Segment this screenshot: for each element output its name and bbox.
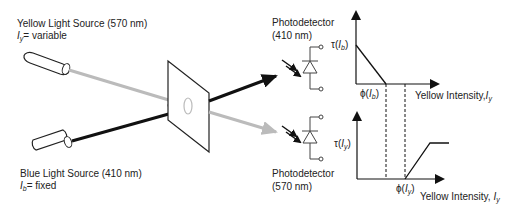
- chart-top-xlabel: Yellow Intensity,Iy: [415, 90, 492, 104]
- photodetector-410nm: [282, 45, 323, 91]
- yellow-light-source: [24, 52, 71, 75]
- detector-top-wavelength: (410 nm): [272, 30, 312, 41]
- blue-beam-out: [209, 76, 276, 101]
- yellow-beam-in: [69, 70, 182, 104]
- chart-top-axes: [356, 12, 438, 84]
- chart-top-ylabel: τ(Ib): [331, 39, 348, 53]
- chart-top-threshold: ϕ(Ib): [360, 88, 379, 102]
- blue-light-source: [32, 130, 73, 150]
- blue-beam-in: [72, 110, 183, 141]
- detector-top-title: Photodetector: [272, 17, 334, 28]
- blue-source-intensity: Ib= fixed: [20, 180, 56, 194]
- yellow-beam-out: [209, 112, 276, 132]
- chart-bottom-threshold: ϕ(Iy): [396, 183, 415, 197]
- yellow-source-title: Yellow Light Source (570 nm): [17, 18, 147, 29]
- chart-bottom-axes: [357, 113, 449, 179]
- blue-source-title: Blue Light Source (410 nm): [20, 168, 142, 179]
- chart-bottom-ylabel: τ(Iy): [334, 138, 351, 152]
- chart-bottom-curve: [405, 143, 449, 179]
- diagram-canvas: [0, 0, 523, 217]
- detector-bottom-title: Photodetector: [272, 168, 334, 179]
- yellow-source-intensity: Iy= variable: [17, 30, 67, 44]
- sample-plate: [168, 61, 209, 152]
- detector-bottom-wavelength: (570 nm): [272, 181, 312, 192]
- chart-top-curve: [356, 45, 386, 84]
- chart-bottom-xlabel: Yellow Intensity, Iy: [420, 191, 500, 205]
- photodetector-570nm: [282, 115, 323, 161]
